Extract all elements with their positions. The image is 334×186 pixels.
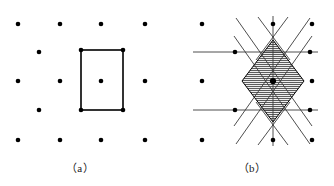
wigner-seitz-center-point (270, 78, 276, 84)
lattice-point (37, 108, 42, 113)
lattice-point (200, 138, 205, 143)
lattice-point (16, 22, 21, 27)
lattice-point (271, 22, 276, 27)
lattice-point (16, 138, 21, 143)
lattice-point (99, 79, 104, 84)
lattice-point (99, 22, 104, 27)
lattice-point (58, 79, 63, 84)
lattice-point (37, 50, 42, 55)
lattice-point (58, 22, 63, 27)
lattice-point (121, 108, 126, 113)
lattice-point (308, 108, 313, 113)
lattice-point (143, 22, 148, 27)
lattice-point (143, 79, 148, 84)
lattice-point (233, 108, 238, 113)
lattice-point (79, 48, 84, 53)
lattice-point (99, 138, 104, 143)
lattice-point (143, 138, 148, 143)
lattice-point (58, 138, 63, 143)
lattice-point (79, 108, 84, 113)
lattice-point (200, 22, 205, 27)
figure-canvas: （a） （b） (0, 0, 334, 186)
lattice-point (271, 138, 276, 143)
lattice-point (16, 79, 21, 84)
panel-a-caption: （a） (66, 162, 94, 174)
lattice-point (121, 48, 126, 53)
panel-b-caption: （b） (238, 162, 267, 174)
lattice-point (310, 138, 315, 143)
lattice-point (200, 79, 205, 84)
lattice-figure: （a） （b） (0, 0, 334, 186)
lattice-point (310, 22, 315, 27)
lattice-point (308, 50, 313, 55)
lattice-point (233, 50, 238, 55)
lattice-point (310, 79, 315, 84)
